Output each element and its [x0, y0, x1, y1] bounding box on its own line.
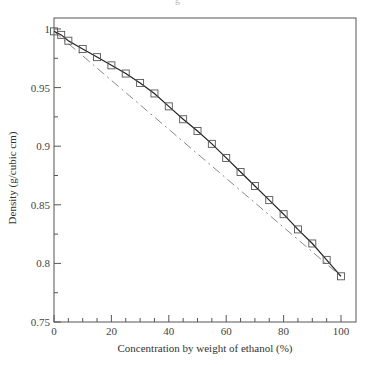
- y-tick-label: 1: [45, 23, 51, 35]
- y-tick-label: 0.95: [31, 82, 51, 94]
- density-chart: 0204060801000.750.80.850.90.951 Concentr…: [0, 0, 373, 365]
- y-tick-label: 0.8: [36, 257, 50, 269]
- x-tick-label: 80: [278, 325, 290, 337]
- data-series: [51, 28, 345, 280]
- x-tick-label: 0: [51, 325, 57, 337]
- plot-border: [54, 18, 356, 322]
- plot-frame: [54, 18, 356, 322]
- x-tick-label: 100: [333, 325, 350, 337]
- axis-ticks: 0204060801000.750.80.850.90.951: [31, 23, 350, 337]
- y-tick-label: 0.9: [36, 140, 50, 152]
- x-tick-label: 20: [106, 325, 118, 337]
- x-axis-label: Concentration by weight of ethanol (%): [117, 342, 292, 355]
- y-axis-label: Density (g/cubic cm): [6, 131, 19, 224]
- y-tick-label: 0.85: [31, 199, 51, 211]
- x-tick-label: 40: [163, 325, 175, 337]
- linear-dashdot-line: [54, 31, 341, 276]
- x-tick-label: 60: [221, 325, 233, 337]
- y-tick-label: 0.75: [31, 316, 51, 328]
- measured-line: [54, 31, 341, 276]
